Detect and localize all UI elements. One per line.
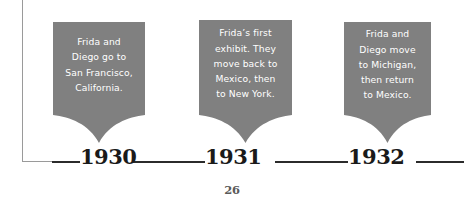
banner-tail-icon: [199, 107, 292, 143]
left-margin-rule: [22, 0, 23, 162]
timeline-event-banner: Frida’s first exhibit. They move back to…: [199, 20, 292, 143]
banner-text: Frida and Diego go to San Francisco, Cal…: [62, 34, 135, 95]
timeline-event-banner: Frida and Diego go to San Francisco, Cal…: [53, 22, 145, 143]
timeline-axis-segment: [416, 161, 464, 163]
timeline-axis-segment: [275, 161, 348, 163]
timeline-year-label: 1930: [80, 146, 136, 167]
banner-tail-icon: [344, 107, 431, 143]
timeline-event-banner: Frida and Diego move to Michigan, then r…: [344, 22, 431, 143]
banner-body: Frida and Diego move to Michigan, then r…: [344, 22, 431, 107]
banner-body: Frida and Diego go to San Francisco, Cal…: [53, 22, 145, 107]
left-margin-rule-corner: [22, 161, 52, 162]
banner-text: Frida and Diego move to Michigan, then r…: [356, 26, 419, 102]
banner-text: Frida’s first exhibit. They move back to…: [211, 25, 281, 101]
banner-tail-icon: [53, 107, 145, 143]
timeline-page: Frida and Diego go to San Francisco, Cal…: [0, 0, 464, 209]
timeline-axis-segment: [133, 161, 205, 163]
banner-body: Frida’s first exhibit. They move back to…: [199, 20, 292, 107]
timeline-year-label: 1931: [205, 146, 261, 167]
page-number: 26: [0, 183, 464, 197]
timeline-year-label: 1932: [348, 146, 404, 167]
timeline-axis-segment: [52, 161, 80, 163]
